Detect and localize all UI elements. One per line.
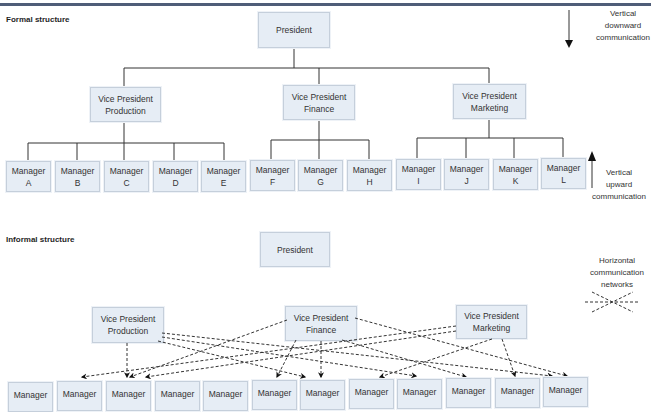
dashed-link [82, 326, 456, 377]
informal-manager: Manager [397, 379, 442, 409]
horizontal-communication-note: Horizontal communication networks [580, 255, 651, 291]
dashed-link [130, 320, 287, 377]
dashed-link [355, 318, 567, 376]
dashed-link [380, 339, 492, 377]
dashed-link [502, 339, 515, 376]
informal-manager: Manager [252, 380, 297, 410]
horizontal-network-icon [585, 292, 640, 312]
informal-manager: Manager [300, 380, 345, 410]
note-line: Horizontal [599, 256, 635, 265]
informal-manager: Manager [106, 381, 151, 411]
informal-manager: Manager [495, 378, 540, 408]
informal-manager: Manager [155, 381, 200, 411]
dashed-link [162, 333, 552, 376]
informal-manager: Manager [543, 377, 588, 407]
note-line: communication [590, 268, 644, 277]
informal-manager: Manager [446, 378, 491, 408]
informal-manager: Manager [8, 382, 53, 412]
dashed-link [277, 340, 296, 377]
informal-manager: Manager [203, 381, 248, 411]
informal-manager: Manager [57, 381, 102, 411]
note-line: networks [601, 280, 633, 289]
informal-manager: Manager [349, 379, 394, 409]
